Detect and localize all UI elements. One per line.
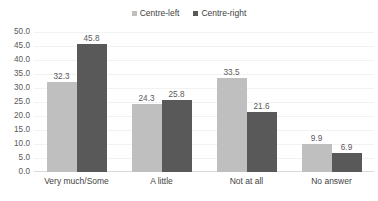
grouped-bar-chart: Centre-left Centre-right 50.045.040.035.… — [0, 0, 378, 201]
bar-centre-left[interactable] — [302, 144, 332, 172]
bar-slot: 21.6 — [247, 32, 277, 172]
bar-value-label: 25.8 — [169, 90, 185, 99]
bar-slot: 25.8 — [162, 32, 192, 172]
bar-slot: 6.9 — [332, 32, 362, 172]
bar-centre-right[interactable] — [247, 112, 277, 172]
legend-item-centre-left[interactable]: Centre-left — [132, 9, 180, 18]
y-axis-tick-label: 35.0 — [0, 70, 30, 78]
legend-swatch-icon-centre-right — [193, 11, 198, 16]
bar-value-label: 45.8 — [84, 34, 100, 43]
bar-value-label: 32.3 — [54, 72, 70, 81]
legend-item-centre-right[interactable]: Centre-right — [193, 9, 246, 18]
y-axis: 50.045.040.035.030.025.020.015.010.05.00… — [0, 32, 30, 172]
y-axis-tick-label: 0.0 — [0, 168, 30, 176]
bar-slot: 24.3 — [132, 32, 162, 172]
y-axis-tick-label: 45.0 — [0, 42, 30, 50]
x-axis-tick-label: A little — [119, 176, 204, 186]
bar-slot: 33.5 — [217, 32, 247, 172]
legend-swatch-icon-centre-left — [132, 11, 137, 16]
y-axis-tick-label: 25.0 — [0, 98, 30, 106]
bar-group-bars: 9.96.9 — [289, 32, 374, 172]
bar-group-bars: 32.345.8 — [34, 32, 119, 172]
y-axis-tick-label: 40.0 — [0, 56, 30, 64]
bar-value-label: 33.5 — [224, 68, 240, 77]
x-axis-tick-label: Very much/Some — [34, 176, 119, 186]
bar-value-label: 21.6 — [254, 102, 270, 111]
bar-centre-left[interactable] — [217, 78, 247, 172]
bar-slot: 45.8 — [77, 32, 107, 172]
bar-centre-right[interactable] — [332, 153, 362, 172]
legend-label-centre-right: Centre-right — [201, 9, 246, 18]
bar-centre-left[interactable] — [132, 104, 162, 172]
bar-value-label: 6.9 — [341, 143, 352, 152]
bar-centre-left[interactable] — [47, 82, 77, 172]
y-axis-tick-label: 15.0 — [0, 126, 30, 134]
chart-legend: Centre-left Centre-right — [0, 9, 378, 18]
bar-group-bars: 24.325.8 — [119, 32, 204, 172]
x-axis-tick-label: Not at all — [204, 176, 289, 186]
bar-centre-right[interactable] — [77, 44, 107, 172]
y-axis-tick-label: 5.0 — [0, 154, 30, 162]
bar-slot: 32.3 — [47, 32, 77, 172]
x-axis-tick-label: No answer — [289, 176, 374, 186]
bar-centre-right[interactable] — [162, 100, 192, 172]
bar-slot: 9.9 — [302, 32, 332, 172]
bar-group: 24.325.8 — [119, 32, 204, 172]
y-axis-tick-label: 10.0 — [0, 140, 30, 148]
legend-label-centre-left: Centre-left — [140, 9, 180, 18]
bar-value-label: 9.9 — [311, 134, 322, 143]
y-axis-tick-label: 50.0 — [0, 28, 30, 36]
bar-group: 32.345.8 — [34, 32, 119, 172]
bar-group-bars: 33.521.6 — [204, 32, 289, 172]
y-axis-tick-label: 30.0 — [0, 84, 30, 92]
y-axis-tick-label: 20.0 — [0, 112, 30, 120]
x-axis: Very much/SomeA littleNot at allNo answe… — [34, 176, 374, 186]
bar-groups: 32.345.824.325.833.521.69.96.9 — [34, 32, 374, 172]
bar-group: 33.521.6 — [204, 32, 289, 172]
bar-value-label: 24.3 — [139, 94, 155, 103]
bar-group: 9.96.9 — [289, 32, 374, 172]
